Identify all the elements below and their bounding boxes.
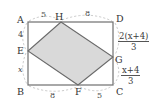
vertex-label-b: B <box>17 87 24 97</box>
vertex-label-c: C <box>116 87 123 97</box>
geometry-figure: A H D E G B F C 5 8 4 x 8 5 2(x+4) 3 x+4… <box>0 0 162 107</box>
length-label-hd: 8 <box>85 10 90 18</box>
length-label-dg-denominator: 3 <box>118 42 149 51</box>
arc-fc <box>80 86 112 91</box>
length-label-fc: 5 <box>97 92 102 100</box>
length-label-dg: 2(x+4) 3 <box>118 32 149 51</box>
length-label-ae: 4 <box>18 31 23 39</box>
vertex-label-g: G <box>115 55 123 65</box>
length-label-bf: 8 <box>50 92 55 100</box>
length-label-gc-denominator: 3 <box>121 76 140 85</box>
vertex-label-h: H <box>55 12 63 22</box>
length-label-gc-numerator: x+4 <box>121 66 140 76</box>
length-label-eb: x <box>18 66 23 74</box>
vertex-label-e: E <box>17 46 24 56</box>
quadrilateral-efgh <box>28 22 113 85</box>
length-label-dg-numerator: 2(x+4) <box>118 32 149 42</box>
vertex-label-a: A <box>17 15 24 25</box>
length-label-ah: 5 <box>41 11 46 19</box>
vertex-label-f: F <box>75 87 82 97</box>
vertex-label-d: D <box>116 14 124 24</box>
arc-eb <box>23 53 27 84</box>
length-label-gc: x+4 3 <box>121 66 140 85</box>
